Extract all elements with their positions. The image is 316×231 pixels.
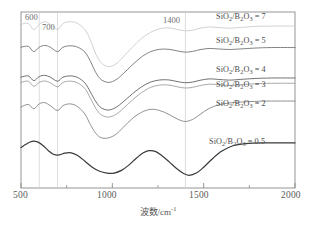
guide-lines bbox=[39, 12, 185, 188]
formula-sub-4c: 3 bbox=[249, 68, 252, 75]
series-label-2: SiO2/B2O3 = 2 bbox=[216, 99, 266, 108]
ftir-spectra-figure: 500 1000 1500 2000 600 700 1400 SiO2/B2O… bbox=[0, 0, 316, 231]
formula-sub-5c: 3 bbox=[249, 39, 252, 46]
annotation-600: 600 bbox=[25, 12, 38, 22]
plot-canvas bbox=[0, 0, 316, 231]
formula-slash-7: /B bbox=[232, 12, 240, 21]
series-label-7: SiO2/B2O3 = 7 bbox=[216, 12, 266, 21]
xtick-label-500: 500 bbox=[13, 190, 28, 200]
formula-slash-5: /B bbox=[232, 36, 240, 45]
spectrum-curve-1 bbox=[21, 45, 295, 82]
formula-text-4: SiO bbox=[216, 65, 229, 74]
formula-text-5: SiO bbox=[216, 36, 229, 45]
formula-sub-3a: 2 bbox=[229, 83, 232, 90]
formula-sub-3c: 3 bbox=[249, 83, 252, 90]
formula-slash-05: /B bbox=[225, 137, 233, 146]
series-label-5: SiO2/B2O3 = 5 bbox=[216, 36, 266, 45]
formula-sub-4b: 2 bbox=[240, 68, 243, 75]
formula-sub-7c: 3 bbox=[249, 15, 252, 22]
formula-sub-05c: 3 bbox=[242, 140, 245, 147]
series-label-05: SiO2/B2O3 = 0.5 bbox=[209, 137, 265, 146]
formula-slash-4: /B bbox=[232, 65, 240, 74]
series-label-4: SiO2/B2O3 = 4 bbox=[216, 65, 266, 74]
xaxis-title: 波数/cm-1 bbox=[0, 205, 316, 218]
xtick-label-1500: 1500 bbox=[189, 190, 209, 200]
formula-sub-5a: 2 bbox=[229, 39, 232, 46]
formula-sub-5b: 2 bbox=[240, 39, 243, 46]
annotation-700: 700 bbox=[42, 22, 55, 32]
formula-sub-05b: 2 bbox=[233, 140, 236, 147]
xtick-label-1000: 1000 bbox=[97, 190, 117, 200]
series-value-2: = 2 bbox=[253, 99, 266, 108]
formula-sub-2b: 2 bbox=[240, 102, 243, 109]
formula-sub-7b: 2 bbox=[240, 15, 243, 22]
formula-text-2: SiO bbox=[216, 99, 229, 108]
xtick-label-2000: 2000 bbox=[281, 190, 301, 200]
formula-text-3: SiO bbox=[216, 80, 229, 89]
formula-slash-2: /B bbox=[232, 99, 240, 108]
series-value-7: = 7 bbox=[253, 12, 266, 21]
xaxis-title-base: 波数/cm bbox=[140, 207, 172, 217]
series-value-05: = 0.5 bbox=[246, 137, 266, 146]
series-value-3: = 3 bbox=[253, 80, 266, 89]
formula-sub-2c: 3 bbox=[249, 102, 252, 109]
series-label-3: SiO2/B2O3 = 3 bbox=[216, 80, 266, 89]
axis-ticks bbox=[21, 183, 295, 188]
series-value-5: = 5 bbox=[253, 36, 266, 45]
spectrum-curve-5 bbox=[21, 141, 295, 175]
formula-text-05: SiO bbox=[209, 137, 222, 146]
formula-sub-3b: 2 bbox=[240, 83, 243, 90]
formula-text-7: SiO bbox=[216, 12, 229, 21]
xaxis-title-exponent: -1 bbox=[171, 205, 176, 212]
annotation-1400: 1400 bbox=[163, 15, 180, 25]
formula-sub-7a: 2 bbox=[229, 15, 232, 22]
formula-sub-2a: 2 bbox=[229, 102, 232, 109]
series-value-4: = 4 bbox=[253, 65, 266, 74]
formula-slash-3: /B bbox=[232, 80, 240, 89]
formula-sub-05a: 2 bbox=[222, 140, 225, 147]
formula-sub-4a: 2 bbox=[229, 68, 232, 75]
